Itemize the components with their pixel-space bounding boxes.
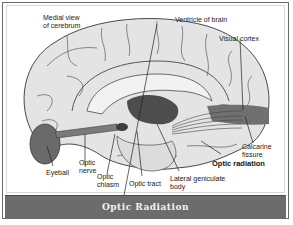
caption-title: Optic Radiation bbox=[102, 202, 189, 212]
label-optic-chiasm: Optic chiasm bbox=[97, 173, 119, 188]
optic-chiasm-shape bbox=[116, 123, 128, 131]
label-medial-view: Medial view of cerebrum bbox=[43, 14, 80, 29]
label-calcarine-fissure: Calcarine fissure bbox=[242, 143, 272, 158]
label-visual-cortex: Visual cortex bbox=[219, 35, 259, 43]
label-optic-nerve: Optic nerve bbox=[79, 159, 97, 174]
diagram-frame: Medial view of cerebrum Ventricle of bra… bbox=[2, 2, 289, 219]
label-lateral-geniculate: Lateral geniculate body bbox=[170, 175, 225, 190]
label-optic-tract: Optic tract bbox=[129, 180, 161, 188]
label-eyeball: Eyeball bbox=[46, 169, 69, 177]
caption-bar: Optic Radiation bbox=[5, 195, 286, 218]
diagram-panel: Medial view of cerebrum Ventricle of bra… bbox=[6, 5, 285, 193]
label-ventricle: Ventricle of brain bbox=[175, 16, 227, 24]
eyeball-shape bbox=[30, 124, 60, 164]
label-optic-radiation: Optic radiation bbox=[212, 160, 265, 168]
